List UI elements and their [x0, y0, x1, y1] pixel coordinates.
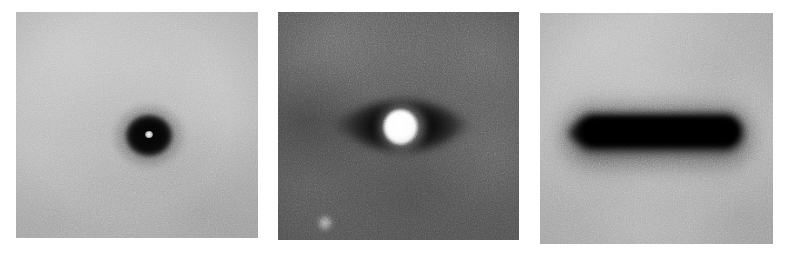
image-panel-right[interactable]: [540, 13, 773, 244]
image-panel-left[interactable]: [16, 12, 258, 238]
bright-center-dot: [145, 131, 153, 138]
image-panel-center[interactable]: [278, 12, 519, 240]
bright-core: [384, 110, 417, 144]
figure-root: [0, 0, 787, 262]
horizontal-dark-bar-core: [582, 118, 738, 145]
faint-dot: [317, 215, 333, 231]
